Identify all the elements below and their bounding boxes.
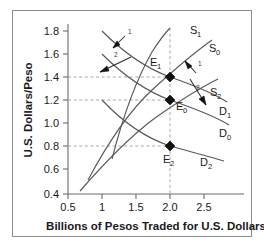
y-axis-title: U.S. Dollars/Peso bbox=[22, 62, 34, 157]
y-axis-ticks: 1.8 1.6 1.4 1.2 1.0 0.8 0.6 0.4 bbox=[44, 25, 68, 200]
x-tick-label-2.0: 2.0 bbox=[162, 201, 177, 213]
x-tick-label-0.5: 0.5 bbox=[60, 201, 75, 213]
equilibrium-marker-E0[interactable] bbox=[165, 95, 175, 105]
curve-label-D2: D bbox=[200, 156, 208, 168]
y-tick-label-1.0: 1.0 bbox=[44, 117, 59, 129]
equilibrium-subscript-E2: 2 bbox=[170, 159, 174, 168]
equilibrium-subscript-E1: 1 bbox=[157, 62, 161, 71]
demand-shift-label-1: 1 bbox=[198, 60, 202, 67]
supply-shift-label-1: 1 bbox=[128, 28, 132, 35]
supply-shift-arrows: 1 2 bbox=[100, 28, 132, 72]
y-tick-label-0.6: 0.6 bbox=[44, 163, 59, 175]
curve-subscript-D1: 1 bbox=[227, 111, 231, 120]
y-tick-label-1.8: 1.8 bbox=[44, 25, 59, 37]
demand-shift-arrow-2-head bbox=[199, 96, 206, 105]
curve-subscript-D0: 0 bbox=[227, 133, 231, 142]
x-tick-label-2.5: 2.5 bbox=[196, 201, 211, 213]
y-tick-label-0.4: 0.4 bbox=[44, 188, 59, 200]
curve-label-D1: D bbox=[219, 105, 227, 117]
x-axis-title: Billions of Pesos Traded for U.S. Dollar… bbox=[46, 220, 264, 232]
demand-shift-arrows: 1 2 bbox=[185, 60, 206, 105]
equilibrium-subscript-E0: 0 bbox=[183, 106, 187, 115]
guide-lines-group bbox=[68, 28, 170, 194]
curve-subscript-S2: 2 bbox=[217, 92, 221, 101]
equilibrium-marker-E1[interactable] bbox=[165, 72, 175, 82]
curve-S2 bbox=[80, 79, 218, 191]
figure-root: 1.8 1.6 1.4 1.2 1.0 0.8 0.6 0.4 0.5 1 1.… bbox=[0, 0, 264, 247]
curve-subscript-S1: 1 bbox=[197, 30, 201, 39]
y-tick-label-0.8: 0.8 bbox=[44, 140, 59, 152]
y-tick-label-1.2: 1.2 bbox=[44, 94, 59, 106]
equilibrium-labels-group: E 1 E 0 E 2 bbox=[150, 56, 187, 168]
equilibrium-markers-group bbox=[165, 72, 175, 151]
curve-labels-group: S 1 S 0 S 2 D 1 D 0 D 2 bbox=[190, 24, 231, 171]
y-tick-label-1.6: 1.6 bbox=[44, 48, 59, 60]
supply-demand-chart: 1.8 1.6 1.4 1.2 1.0 0.8 0.6 0.4 0.5 1 1.… bbox=[0, 0, 264, 247]
curve-label-D0: D bbox=[219, 127, 227, 139]
y-tick-label-1.4: 1.4 bbox=[44, 71, 59, 83]
x-tick-label-1.5: 1.5 bbox=[128, 201, 143, 213]
supply-shift-arrow-2-head bbox=[100, 66, 109, 72]
x-tick-label-1: 1 bbox=[99, 201, 105, 213]
curve-subscript-S0: 0 bbox=[216, 48, 220, 57]
curve-subscript-D2: 2 bbox=[208, 162, 212, 171]
supply-shift-label-2: 2 bbox=[114, 51, 118, 58]
demand-shift-label-2: 2 bbox=[196, 84, 200, 91]
equilibrium-marker-E2[interactable] bbox=[165, 141, 175, 151]
x-axis-ticks: 0.5 1 1.5 2.0 2.5 bbox=[60, 194, 211, 213]
